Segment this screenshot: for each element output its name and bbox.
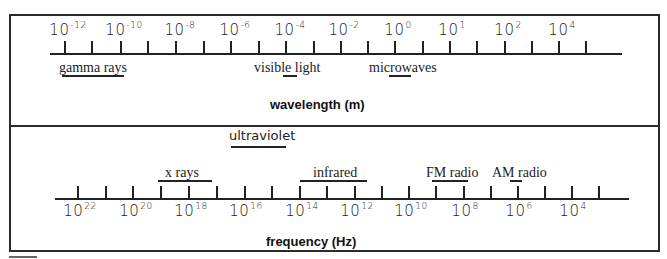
frequency-tick-label: 1016 [229, 201, 263, 220]
wavelength-major-tick [230, 41, 232, 54]
band-range-microwaves [389, 75, 411, 77]
band-label-microwaves: microwaves [369, 60, 437, 76]
frequency-tick-label: 1014 [285, 201, 319, 220]
frequency-axis-line [55, 198, 629, 200]
wavelength-major-tick [175, 41, 177, 54]
band-range-am-radio [510, 180, 522, 182]
band-label-infrared: infrared [313, 165, 357, 181]
band-range-infrared [300, 180, 367, 182]
frequency-major-tick [517, 186, 519, 199]
wavelength-tick-label: 10-6 [219, 20, 250, 39]
band-label-am-radio: AM radio [492, 165, 547, 181]
frequency-minor-tick [105, 186, 107, 199]
panel-divider [9, 125, 660, 127]
band-range-ultraviolet [231, 146, 286, 148]
wavelength-minor-tick [476, 41, 478, 54]
frequency-minor-tick [160, 186, 162, 199]
frequency-tick-label: 108 [451, 201, 478, 220]
wavelength-minor-tick [313, 41, 315, 54]
wavelength-minor-tick [91, 41, 93, 54]
frequency-major-tick [408, 186, 410, 199]
wavelength-tick-label: 10-8 [164, 20, 195, 39]
wavelength-minor-tick [585, 41, 587, 54]
wavelength-tick-label: 10-10 [105, 20, 142, 39]
corner-mark [9, 256, 37, 258]
frequency-tick-label: 1020 [119, 201, 153, 220]
band-label-ultraviolet: ultraviolet [229, 128, 295, 143]
wavelength-minor-tick [422, 41, 424, 54]
wavelength-tick-label: 100 [384, 20, 411, 39]
wavelength-minor-tick [203, 41, 205, 54]
frequency-minor-tick [544, 186, 546, 199]
wavelength-tick-label: 102 [494, 20, 521, 39]
wavelength-major-tick [285, 41, 287, 54]
frequency-major-tick [77, 186, 79, 199]
wavelength-major-tick [64, 41, 66, 54]
frequency-major-tick [132, 186, 134, 199]
band-range-fm-radio [432, 180, 468, 182]
wavelength-minor-tick [258, 41, 260, 54]
frequency-major-tick [188, 186, 190, 199]
wavelength-axis-line [50, 53, 622, 55]
frequency-minor-tick [326, 186, 328, 199]
wavelength-tick-label: 10-4 [274, 20, 305, 39]
band-label-visible-light: visible light [254, 60, 321, 76]
wavelength-tick-label: 101 [438, 20, 465, 39]
frequency-tick-label: 106 [505, 201, 532, 220]
frequency-minor-tick [435, 186, 437, 199]
frequency-tick-label: 1010 [394, 201, 428, 220]
wavelength-major-tick [504, 41, 506, 54]
wavelength-major-tick [558, 41, 560, 54]
wavelength-major-tick [394, 41, 396, 54]
band-range-gamma-rays [62, 75, 124, 77]
frequency-major-tick [244, 186, 246, 199]
frequency-major-tick [299, 186, 301, 199]
frequency-minor-tick [381, 186, 383, 199]
wavelength-minor-tick [531, 41, 533, 54]
frequency-tick-label: 1022 [63, 201, 97, 220]
band-range-x-rays [158, 180, 212, 182]
wavelength-tick-label: 10-2 [328, 20, 359, 39]
wavelength-minor-tick [367, 41, 369, 54]
band-range-visible-light [283, 75, 297, 77]
band-label-fm-radio: FM radio [426, 165, 479, 181]
wavelength-major-tick [120, 41, 122, 54]
frequency-axis-title: frequency (Hz) [266, 234, 356, 249]
frequency-major-tick [571, 186, 573, 199]
wavelength-axis-title: wavelength (m) [270, 97, 365, 112]
frequency-minor-tick [490, 186, 492, 199]
frequency-minor-tick [598, 186, 600, 199]
wavelength-tick-label: 104 [548, 20, 575, 39]
frequency-tick-label: 1018 [174, 201, 208, 220]
frequency-tick-label: 104 [559, 201, 586, 220]
frequency-major-tick [463, 186, 465, 199]
band-label-gamma-rays: gamma rays [59, 60, 127, 76]
wavelength-tick-label: 10-12 [49, 20, 86, 39]
frequency-tick-label: 1012 [340, 201, 374, 220]
wavelength-major-tick [449, 41, 451, 54]
frequency-minor-tick [216, 186, 218, 199]
wavelength-minor-tick [147, 41, 149, 54]
frequency-major-tick [354, 186, 356, 199]
frequency-minor-tick [271, 186, 273, 199]
wavelength-major-tick [340, 41, 342, 54]
band-label-x-rays: x rays [165, 165, 199, 181]
